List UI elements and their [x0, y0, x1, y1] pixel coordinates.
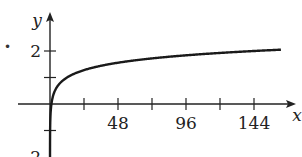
- axis-labels: 489614422xy: [30, 10, 302, 157]
- x-tick-label: 96: [175, 113, 197, 133]
- y-tick-label: 2: [30, 41, 41, 61]
- y-axis-label: y: [31, 10, 42, 30]
- function-graph: 489614422xy: [0, 0, 302, 157]
- x-tick-label: 48: [107, 113, 129, 133]
- y-tick-label-partial: 2: [30, 147, 41, 157]
- x-tick-label: 144: [238, 113, 270, 133]
- x-axis-label: x: [292, 105, 302, 125]
